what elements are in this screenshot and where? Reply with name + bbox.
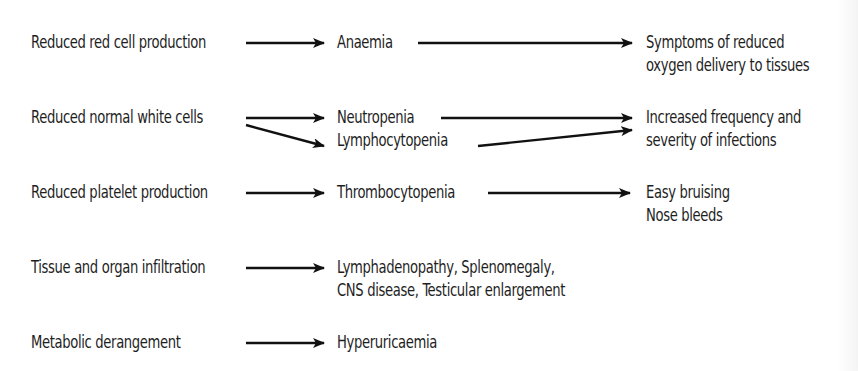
arrow-icon — [246, 125, 324, 146]
arrow-icon — [478, 130, 632, 146]
flow-arrows — [0, 0, 858, 371]
page-edge-shadow — [838, 0, 858, 371]
